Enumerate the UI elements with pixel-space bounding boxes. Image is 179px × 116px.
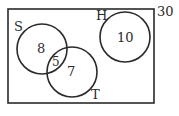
set-h-only-value: 10 <box>117 30 134 45</box>
set-t-label: T <box>91 87 100 102</box>
set-s-only-value: 8 <box>37 41 45 56</box>
universal-set-rectangle <box>8 9 154 103</box>
venn-diagram: 30 S 8 T 7 5 H 10 <box>0 0 179 116</box>
set-t-only-value: 7 <box>67 64 75 79</box>
s-t-intersection-value: 5 <box>52 55 60 69</box>
set-s-label: S <box>14 19 23 34</box>
universe-total-label: 30 <box>157 4 174 19</box>
set-h-label: H <box>96 8 107 23</box>
